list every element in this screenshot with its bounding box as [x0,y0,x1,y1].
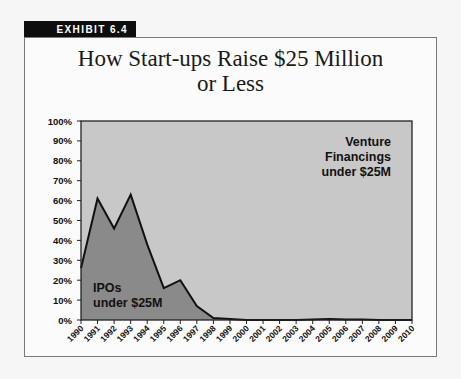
venture-annotation: Financings [325,150,391,164]
x-tick-label: 2005 [313,323,334,344]
x-tick-label: 1996 [164,323,185,344]
y-tick-label: 90% [53,135,73,146]
y-tick-label: 100% [48,116,73,127]
y-tick-label: 10% [53,295,73,306]
y-tick-label: 40% [53,235,73,246]
x-tick-label: 2001 [247,323,268,344]
x-tick-label: 1994 [131,323,152,344]
x-tick-label: 1993 [115,323,136,344]
venture-annotation: Venture [345,135,391,149]
x-tick-label: 2004 [297,323,318,344]
x-tick-label: 1998 [197,323,218,344]
x-tick-label: 2003 [280,323,301,344]
ipo-annotation: IPOs [93,281,122,295]
x-tick-label: 2000 [230,323,251,344]
x-tick-label: 1999 [214,323,235,344]
x-tick-label: 1995 [148,323,169,344]
y-tick-label: 30% [53,255,73,266]
ipo-annotation: under $25M [93,296,162,310]
y-tick-label: 70% [53,175,73,186]
x-tick-label: 2008 [363,323,384,344]
y-tick-label: 0% [58,315,72,326]
x-tick-label: 1997 [181,323,202,344]
area-chart: 0%10%20%30%40%50%60%70%80%90%100%1990199… [0,0,461,379]
y-tick-label: 50% [53,215,73,226]
x-tick-label: 2010 [396,323,417,344]
venture-annotation: under $25M [322,165,391,179]
x-tick-label: 1992 [98,323,119,344]
y-tick-label: 80% [53,155,73,166]
x-tick-label: 2002 [264,323,285,344]
x-tick-label: 2009 [379,323,400,344]
x-tick-label: 2007 [346,323,367,344]
x-tick-label: 1991 [82,323,103,344]
x-tick-label: 2006 [330,323,351,344]
x-tick-label: 1990 [65,323,86,344]
y-tick-label: 20% [53,275,73,286]
y-tick-label: 60% [53,195,73,206]
